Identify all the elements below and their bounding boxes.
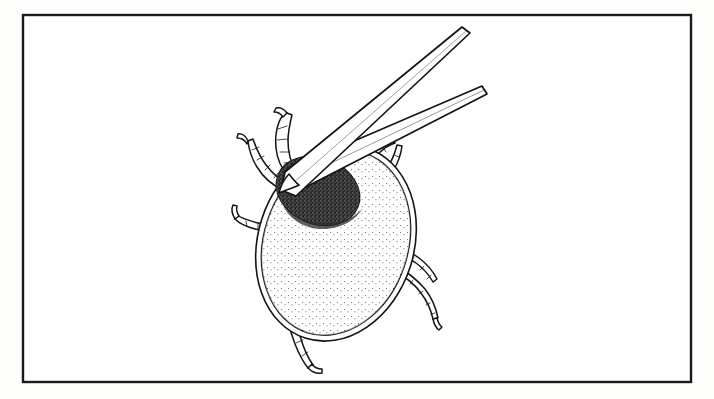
- tick-removal-illustration: Tick being grasped and removed with fine…: [0, 0, 714, 399]
- figure-container: Tick being grasped and removed with fine…: [0, 0, 714, 399]
